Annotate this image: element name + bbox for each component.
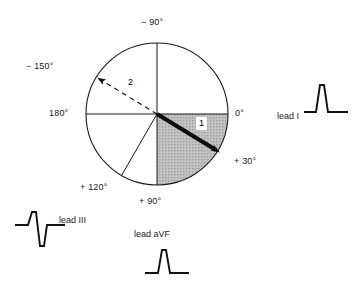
lead-avf-ecg-trace [144, 245, 190, 279]
lead-1-label: lead I [277, 111, 299, 121]
vector-2-label: 2 [125, 76, 136, 89]
axis-label-pos30: + 30° [234, 156, 256, 166]
lead-1-ecg-trace [303, 79, 349, 119]
axis-label-pos120: + 120° [80, 182, 108, 192]
cardiac-axis-figure: − 90° − 150° 180° 0° + 30° + 90° + 120° … [0, 0, 353, 282]
radial-line-pos120 [122, 114, 158, 176]
axis-label-neg150: − 150° [26, 61, 54, 71]
axis-label-neg90: − 90° [141, 17, 163, 27]
vector-1-label: 1 [196, 117, 207, 130]
axis-label-pos90: + 90° [139, 196, 161, 206]
lead-avf-label: lead aVF [134, 229, 170, 239]
axis-label-180: 180° [49, 108, 68, 118]
axis-label-0: 0° [235, 108, 244, 118]
lead-3-ecg-trace [14, 207, 66, 251]
normal-axis-sector [157, 114, 228, 185]
